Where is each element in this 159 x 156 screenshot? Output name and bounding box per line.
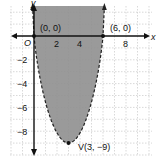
x-tick-4: 4 [77,39,82,49]
label-point-origin: (0, 0) [40,23,61,33]
x-tick-8: 8 [123,39,128,49]
label-point-6-0: (6, 0) [110,23,131,33]
vertex-point [67,141,71,145]
parabola-inequality-graph: y x O 2 4 8 −2 −4 −6 −8 (0, 0) (6, 0) V(… [0,0,159,156]
x-tick-2: 2 [54,39,59,49]
y-tick-minus-6: −6 [17,103,27,113]
point-6-0 [101,34,105,38]
y-tick-minus-2: −2 [17,55,27,65]
x-axis-arrow-left [11,33,17,39]
x-axis-label: x [150,32,156,42]
point-origin [32,34,36,38]
y-axis-label: y [30,0,36,8]
label-vertex: V(3, −9) [78,142,110,152]
y-tick-minus-8: −8 [17,127,27,137]
y-tick-minus-4: −4 [17,79,27,89]
origin-label: O [24,38,31,48]
